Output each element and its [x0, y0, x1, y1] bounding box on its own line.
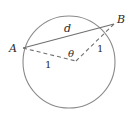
- radius-right-label: 1: [97, 43, 103, 54]
- radius-left-label: 1: [45, 59, 51, 70]
- point-b-label: B: [116, 13, 125, 26]
- point-a-label: A: [8, 42, 17, 55]
- angle-theta-label: θ: [68, 48, 74, 59]
- chord-circle-diagram: A B d θ 1 1: [0, 0, 136, 118]
- chord-length-label: d: [64, 22, 71, 35]
